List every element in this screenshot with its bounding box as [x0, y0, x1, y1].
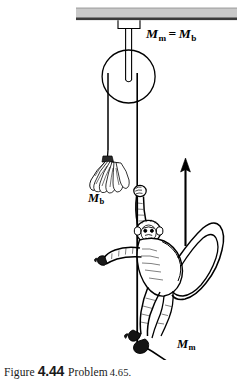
- ceiling-beam: [76, 8, 237, 20]
- caption-problem-word: Problem: [66, 366, 108, 378]
- label-monkey-mass: Mm: [177, 337, 196, 352]
- physics-figure-illustration: [0, 0, 241, 360]
- label-bananas-mass: Mb: [88, 191, 104, 206]
- monkey-torso: [137, 238, 182, 296]
- bananas-mass-symbol: M: [88, 191, 99, 205]
- figure-container: Mm=Mb Mb Mm Figure4.44Problem4.65.: [0, 0, 241, 387]
- bananas-mass-subscript: b: [99, 196, 104, 206]
- banana-bunch: [90, 156, 129, 193]
- rope-left-segment: [107, 73, 108, 158]
- monkey-reaching-arm: [94, 247, 141, 265]
- figure-caption: Figure4.44Problem4.65.: [4, 363, 237, 379]
- label-mass-equation: Mm=Mb: [146, 26, 196, 43]
- equation-operator: =: [166, 26, 179, 41]
- pulley-axle-rod: [126, 29, 132, 82]
- equation-right-subscript: b: [191, 33, 197, 43]
- pulley-wheel: [102, 50, 155, 103]
- pulley-bracket: [118, 20, 140, 28]
- caption-figure-number: 4.44: [35, 363, 66, 379]
- equation-left-symbol: M: [146, 26, 158, 41]
- monkey-upper-hand: [134, 185, 146, 196]
- monkey-mass-subscript: m: [188, 342, 195, 352]
- monkey-legs: [124, 287, 173, 354]
- equation-right-symbol: M: [179, 26, 191, 41]
- caption-figure-word: Figure: [4, 366, 35, 378]
- monkey-mass-symbol: M: [177, 337, 188, 351]
- monkey: [94, 185, 223, 353]
- equation-left-subscript: m: [158, 33, 166, 43]
- caption-problem-number: 4.65.: [108, 367, 132, 378]
- upward-motion-arrow: [181, 158, 191, 246]
